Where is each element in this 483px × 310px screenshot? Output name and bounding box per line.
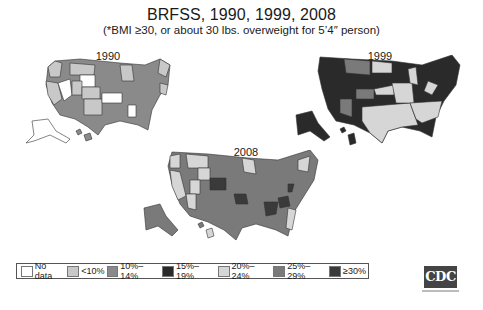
legend-swatch [273,266,285,277]
legend-item-20-24: 20%–24% [218,261,272,281]
legend-swatch [107,266,119,277]
legend-label: 20%–24% [232,261,272,281]
legend-swatch [21,266,33,277]
legend-label: 15%–19% [176,261,216,281]
legend-item-15-19: 15%–19% [162,261,216,281]
cdc-logo: CDC [424,266,457,288]
map-1990 [20,55,180,150]
legend-swatch [162,266,174,277]
legend-item-lt10: <10% [67,266,104,277]
cdc-logo-tagline [422,290,459,292]
chart-title: BRFSS, 1990, 1999, 2008 [0,6,483,24]
legend-label: No data [35,261,66,281]
map-2008 [138,150,333,250]
legend: No data <10% 10%–14% 15%–19% 20%–24% 25%… [16,263,369,279]
map-1999 [292,55,477,155]
legend-label: <10% [81,266,104,276]
chart-subtitle: (*BMI ≥30, or about 30 lbs. overweight f… [0,24,483,36]
legend-item-gte30: ≥30% [329,266,366,277]
legend-swatch [67,266,79,277]
legend-item-10-14: 10%–14% [107,261,161,281]
legend-label: ≥30% [343,266,366,276]
legend-item-no-data: No data [21,261,65,281]
legend-item-25-29: 25%–29% [273,261,327,281]
legend-swatch [218,266,230,277]
legend-label: 10%–14% [120,261,160,281]
legend-swatch [329,266,341,277]
legend-label: 25%–29% [287,261,327,281]
